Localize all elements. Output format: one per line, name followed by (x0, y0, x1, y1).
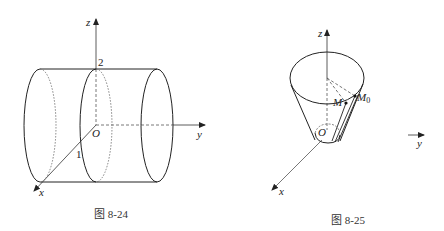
figure-caption-8-25: 图 8-25 (331, 214, 365, 226)
diagram-canvas: z 2 O y 1 x 图 8-24 z M (0, 0, 444, 231)
height-mark-label: 2 (98, 56, 104, 68)
x-axis-label: x (38, 186, 44, 198)
point-m-label: M (332, 96, 343, 108)
origin-label: O (92, 127, 100, 139)
point-m (344, 101, 347, 104)
radius-to-m0 (327, 78, 355, 96)
left-end-front (24, 69, 40, 182)
x-axis (272, 140, 322, 190)
cone-left-side (291, 85, 315, 140)
middle-section-front (80, 69, 96, 182)
figure-8-25: z M M0 O y x 图 8-25 (272, 27, 424, 226)
x-axis-label: x (278, 185, 284, 197)
figure-8-24: z 2 O y 1 x 图 8-24 (24, 16, 205, 220)
point-m0-label: M0 (356, 91, 370, 105)
y-axis-label: y (196, 128, 202, 140)
z-axis-label: z (317, 27, 323, 39)
x-axis (34, 125, 96, 191)
radius-mark-label: 1 (76, 148, 82, 160)
left-end-back (40, 69, 56, 182)
origin-label: O (318, 126, 326, 138)
y-axis-label: y (416, 137, 422, 149)
figure-caption-8-24: 图 8-24 (94, 208, 128, 220)
z-axis-label: z (85, 16, 91, 28)
middle-section-back (96, 69, 112, 182)
right-end (141, 69, 173, 182)
